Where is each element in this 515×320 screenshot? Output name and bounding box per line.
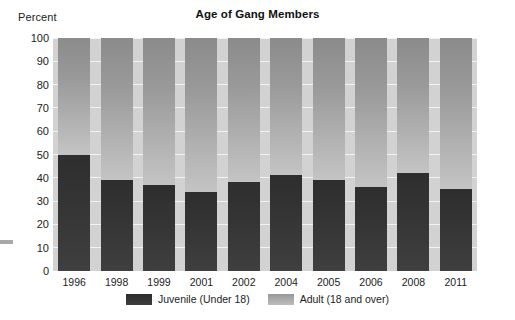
- legend-label: Juvenile (Under 18): [158, 293, 250, 305]
- bar-stack: [440, 38, 472, 271]
- legend-label: Adult (18 and over): [300, 293, 389, 305]
- x-tick-label: 2002: [221, 276, 267, 288]
- bar-segment-adult: [440, 38, 472, 189]
- y-tick-label: 60: [3, 125, 49, 137]
- bar-segment-adult: [228, 38, 260, 182]
- bar-segment-adult: [313, 38, 345, 180]
- x-tick-label: 1999: [136, 276, 182, 288]
- bar-segment-juvenile: [228, 182, 260, 271]
- y-tick-label: 30: [3, 195, 49, 207]
- x-tick-label: 2006: [348, 276, 394, 288]
- bar-stack: [355, 38, 387, 271]
- x-tick-label: 1998: [94, 276, 140, 288]
- bar-stack: [185, 38, 217, 271]
- chart-legend: Juvenile (Under 18)Adult (18 and over): [0, 293, 515, 305]
- y-tick-label: 80: [3, 79, 49, 91]
- x-tick-label: 2005: [306, 276, 352, 288]
- bar-segment-adult: [143, 38, 175, 185]
- legend-swatch-icon: [268, 294, 294, 305]
- bar-segment-adult: [355, 38, 387, 187]
- bar-segment-juvenile: [397, 173, 429, 271]
- bar-stack: [270, 38, 302, 271]
- x-tick-label: 2008: [390, 276, 436, 288]
- bar-segment-adult: [397, 38, 429, 173]
- bar-stack: [101, 38, 133, 271]
- bar-stack: [58, 38, 90, 271]
- x-tick-label: 2001: [178, 276, 224, 288]
- y-axis-tick-labels: 0102030405060708090100: [0, 0, 49, 320]
- bar-segment-adult: [270, 38, 302, 175]
- bar-segment-juvenile: [58, 155, 90, 272]
- bar-segment-juvenile: [101, 180, 133, 271]
- bar-segment-adult: [185, 38, 217, 192]
- chart-title: Age of Gang Members: [0, 8, 515, 20]
- bar-segment-juvenile: [313, 180, 345, 271]
- y-tick-label: 0: [3, 265, 49, 277]
- bar-stack: [313, 38, 345, 271]
- y-tick-label: 10: [3, 242, 49, 254]
- legend-item[interactable]: Juvenile (Under 18): [126, 293, 250, 305]
- bar-segment-juvenile: [355, 187, 387, 271]
- bar-segment-juvenile: [440, 189, 472, 271]
- legend-swatch-icon: [126, 294, 152, 305]
- x-tick-label: 2011: [433, 276, 479, 288]
- bar-segment-juvenile: [185, 192, 217, 271]
- bar-stack: [143, 38, 175, 271]
- y-tick-label: 70: [3, 102, 49, 114]
- bar-segment-adult: [58, 38, 90, 155]
- legend-item[interactable]: Adult (18 and over): [268, 293, 389, 305]
- y-tick-label: 90: [3, 55, 49, 67]
- bar-segment-adult: [101, 38, 133, 180]
- plot-area: [53, 38, 477, 271]
- chart-container: Age of Gang Members Percent 010203040506…: [0, 0, 515, 320]
- bar-segment-juvenile: [143, 185, 175, 271]
- y-tick-label: 20: [3, 218, 49, 230]
- bar-segment-juvenile: [270, 175, 302, 271]
- bar-stack: [228, 38, 260, 271]
- y-tick-label: 50: [3, 149, 49, 161]
- y-tick-label: 40: [3, 172, 49, 184]
- y-tick-label: 100: [3, 32, 49, 44]
- bar-stack: [397, 38, 429, 271]
- x-tick-label: 2004: [263, 276, 309, 288]
- x-tick-label: 1996: [51, 276, 97, 288]
